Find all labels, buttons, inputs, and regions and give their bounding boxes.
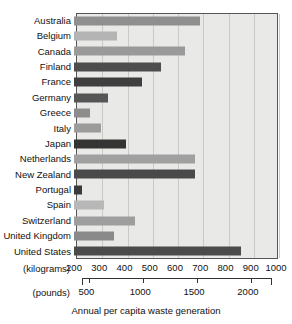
kg-tick-500: 500: [142, 262, 158, 273]
kilograms-axis: (kilograms) 2003004005006007008009001000: [0, 262, 292, 274]
bar-track: [74, 167, 292, 182]
bar-track: [74, 151, 292, 166]
kg-tick-800: 800: [218, 262, 234, 273]
category-label-switzerland: Switzerland: [0, 216, 74, 226]
bar-row: United States: [0, 244, 292, 259]
kg-tick-400: 400: [117, 262, 133, 273]
bar-row: Australia: [0, 13, 292, 28]
bar-track: [74, 228, 292, 243]
category-label-australia: Australia: [0, 16, 74, 26]
bar-track: [74, 136, 292, 151]
category-label-belgium: Belgium: [0, 31, 74, 41]
category-label-finland: Finland: [0, 62, 74, 72]
bar-row: Belgium: [0, 28, 292, 43]
bar-row: United Kingdom: [0, 228, 292, 243]
bar-finland: [74, 62, 161, 71]
category-label-united-states: United States: [0, 247, 74, 257]
bar-row: Canada: [0, 44, 292, 59]
kilograms-tick-labels: 2003004005006007008009001000: [74, 262, 276, 274]
bar-track: [74, 198, 292, 213]
bar-track: [74, 13, 292, 28]
pounds-tick-labels: 500100015002000: [74, 286, 276, 298]
kg-tick-300: 300: [91, 262, 107, 273]
category-label-new-zealand: New Zealand: [0, 170, 74, 180]
bar-new-zealand: [74, 170, 195, 179]
bar-row: New Zealand: [0, 167, 292, 182]
category-label-portugal: Portugal: [0, 185, 74, 195]
bar-track: [74, 59, 292, 74]
category-label-canada: Canada: [0, 47, 74, 57]
lb-tickmark-1500: [197, 279, 198, 283]
bar-track: [74, 244, 292, 259]
category-label-greece: Greece: [0, 108, 74, 118]
category-label-netherlands: Netherlands: [0, 154, 74, 164]
bar-track: [74, 213, 292, 228]
pounds-ruler: [82, 278, 272, 285]
bar-row: Spain: [0, 198, 292, 213]
lb-tickmark-2000: [251, 279, 252, 283]
bar-portugal: [74, 185, 82, 194]
bar-track: [74, 121, 292, 136]
kg-tick-700: 700: [192, 262, 208, 273]
bar-canada: [74, 47, 185, 56]
bar-greece: [74, 108, 90, 117]
bar-row: Portugal: [0, 182, 292, 197]
bar-row: Germany: [0, 90, 292, 105]
kg-tick-1000: 1000: [265, 262, 286, 273]
category-label-france: France: [0, 77, 74, 87]
lb-tick-2000: 2000: [237, 286, 258, 297]
pounds-axis: (pounds) 500100015002000: [0, 286, 292, 298]
bar-track: [74, 75, 292, 90]
pounds-unit-label: (pounds): [0, 287, 74, 298]
bar-united-states: [74, 247, 241, 256]
category-label-spain: Spain: [0, 200, 74, 210]
kg-tick-900: 900: [243, 262, 259, 273]
bar-germany: [74, 93, 108, 102]
bar-netherlands: [74, 155, 195, 164]
lb-tick-500: 500: [78, 286, 94, 297]
bar-italy: [74, 124, 101, 133]
bar-row: Switzerland: [0, 213, 292, 228]
bar-rows: AustraliaBelgiumCanadaFinlandFranceGerma…: [0, 13, 292, 259]
lb-tickmark-500: [89, 279, 90, 283]
bar-track: [74, 28, 292, 43]
bar-track: [74, 182, 292, 197]
x-axis-title: Annual per capita waste generation: [0, 305, 292, 316]
bar-row: Japan: [0, 136, 292, 151]
lb-tick-1500: 1500: [183, 286, 204, 297]
bar-track: [74, 44, 292, 59]
kilograms-unit-label: (kilograms): [0, 263, 74, 274]
bar-belgium: [74, 32, 117, 41]
category-label-germany: Germany: [0, 93, 74, 103]
bar-track: [74, 105, 292, 120]
bar-australia: [74, 16, 200, 25]
bar-row: France: [0, 75, 292, 90]
bar-japan: [74, 139, 126, 148]
kg-tick-600: 600: [167, 262, 183, 273]
bar-france: [74, 78, 142, 87]
lb-tickmark-1000: [143, 279, 144, 283]
bar-track: [74, 90, 292, 105]
waste-generation-bar-chart: AustraliaBelgiumCanadaFinlandFranceGerma…: [0, 0, 292, 324]
category-label-united-kingdom: United Kingdom: [0, 231, 74, 241]
bar-row: Italy: [0, 121, 292, 136]
category-label-japan: Japan: [0, 139, 74, 149]
bar-spain: [74, 201, 104, 210]
bar-row: Netherlands: [0, 151, 292, 166]
category-label-italy: Italy: [0, 124, 74, 134]
kg-tick-200: 200: [66, 262, 82, 273]
bar-row: Greece: [0, 105, 292, 120]
bar-united-kingdom: [74, 231, 114, 240]
lb-tick-1000: 1000: [130, 286, 151, 297]
bar-switzerland: [74, 216, 135, 225]
bar-row: Finland: [0, 59, 292, 74]
